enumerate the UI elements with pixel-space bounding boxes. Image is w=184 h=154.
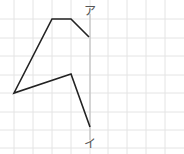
label-i: イ — [84, 137, 96, 151]
grid-figure: ア イ — [0, 0, 184, 154]
grid-lines — [0, 0, 184, 154]
label-a: ア — [84, 4, 96, 18]
